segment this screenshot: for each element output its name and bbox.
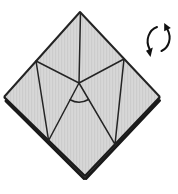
paper-sheet <box>4 12 160 176</box>
origami-diagram <box>0 0 178 194</box>
diagram-canvas <box>0 0 178 194</box>
rotate-symbol-left-arc <box>148 27 157 49</box>
rotate-symbol <box>146 23 171 57</box>
rotate-symbol-right-arc <box>162 30 170 52</box>
